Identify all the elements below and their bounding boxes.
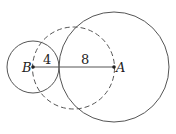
point-B-label: B — [21, 60, 32, 75]
point-A-label: A — [115, 60, 125, 75]
segment-label-4: 4 — [43, 52, 51, 67]
geometry-diagram: B A 4 8 — [0, 0, 176, 134]
segment-label-8: 8 — [81, 52, 89, 67]
point-B-dot — [31, 65, 35, 69]
dashed-circle — [33, 27, 115, 109]
